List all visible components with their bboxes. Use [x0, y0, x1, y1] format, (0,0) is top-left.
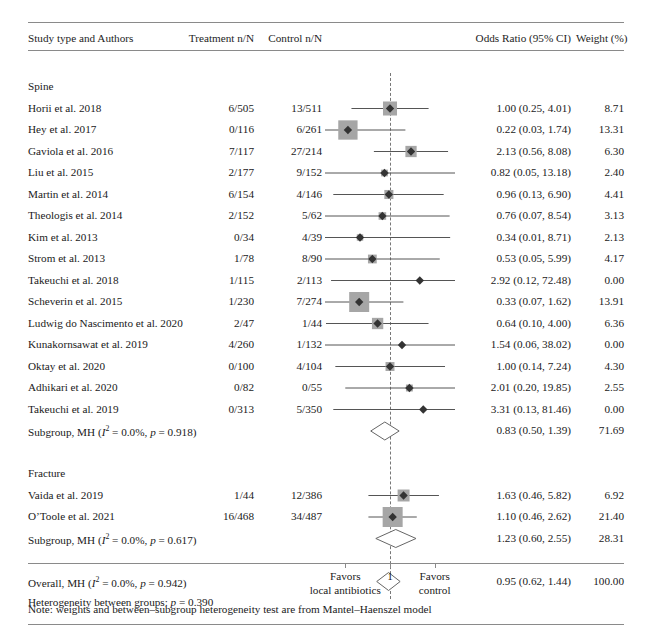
weight-value: 0.00 — [578, 274, 624, 286]
weight-value: 4.30 — [578, 360, 624, 372]
table-row: Hey et al. 20170/1166/2610.22 (0.03, 1.7… — [0, 123, 648, 143]
odds-ratio-value: 0.22 (0.03, 1.74) — [463, 123, 571, 135]
table-row: Kunakornsawat et al. 20194/2601/1321.54 … — [0, 338, 648, 358]
study-name: Adhikari et al. 2020 — [28, 381, 117, 393]
study-name: O’Toole et al. 2021 — [28, 510, 115, 522]
treatment-count: 0/34 — [186, 231, 254, 243]
table-row: Adhikari et al. 20200/820/552.01 (0.20, … — [0, 381, 648, 401]
weight-value: 0.00 — [578, 338, 624, 350]
control-count: 34/487 — [256, 510, 322, 522]
table-row: Liu et al. 20152/1779/1520.82 (0.05, 13.… — [0, 166, 648, 186]
horizontal-rule — [28, 624, 624, 625]
odds-ratio-value: 0.33 (0.07, 1.62) — [463, 295, 571, 307]
table-row: Takeuchi et al. 20190/3135/3503.31 (0.13… — [0, 403, 648, 423]
summary-odds-ratio: 0.83 (0.50, 1.39) — [463, 424, 571, 436]
table-row: O’Toole et al. 202116/46834/4871.10 (0.4… — [0, 510, 648, 530]
control-count: 13/511 — [256, 102, 322, 114]
study-name: Strom et al. 2013 — [28, 252, 105, 264]
summary-weight: 71.69 — [578, 424, 624, 436]
axis-label-left-line1: Favors — [285, 570, 405, 582]
control-count: 4/104 — [256, 360, 322, 372]
subgroup-summary-row: Subgroup, MH (I2 = 0.0%, p = 0.918)0.83 … — [0, 424, 648, 444]
weight-value: 8.71 — [578, 102, 624, 114]
horizontal-rule — [28, 563, 624, 564]
table-row: Theologis et al. 20142/1525/620.76 (0.07… — [0, 209, 648, 229]
study-name: Oktay et al. 2020 — [28, 360, 105, 372]
study-name: Takeuchi et al. 2019 — [28, 403, 119, 415]
study-name: Scheverin et al. 2015 — [28, 295, 122, 307]
study-name: Horii et al. 2018 — [28, 102, 101, 114]
treatment-count: 16/468 — [186, 510, 254, 522]
summary-prefix: Subgroup, MH ( — [28, 426, 102, 438]
summary-mid: = 0.0%, — [109, 426, 150, 438]
summary-weight: 100.00 — [578, 575, 624, 587]
control-count: 27/214 — [256, 145, 322, 157]
odds-ratio-value: 0.64 (0.10, 4.00) — [463, 317, 571, 329]
weight-value: 6.30 — [578, 145, 624, 157]
treatment-count: 0/313 — [186, 403, 254, 415]
axis-tick — [435, 563, 436, 568]
forest-plot-figure: Study type and AuthorsTreatment n/NContr… — [0, 0, 648, 641]
odds-ratio-value: 0.82 (0.05, 13.18) — [463, 166, 571, 178]
table-row: Kim et al. 20130/344/390.34 (0.01, 8.71)… — [0, 231, 648, 251]
table-row: Martin et al. 20146/1544/1460.96 (0.13, … — [0, 188, 648, 208]
summary-weight: 28.31 — [578, 532, 624, 544]
study-name: Theologis et al. 2014 — [28, 209, 122, 221]
weight-value: 0.00 — [578, 403, 624, 415]
odds-ratio-value: 0.96 (0.13, 6.90) — [463, 188, 571, 200]
weight-value: 6.36 — [578, 317, 624, 329]
summary-odds-ratio: 1.23 (0.60, 2.55) — [463, 532, 571, 544]
axis-label-right-line2: control — [389, 584, 481, 596]
weight-value: 13.31 — [578, 123, 624, 135]
subgroup-label: Subgroup, MH (I2 = 0.0%, p = 0.918) — [28, 424, 197, 438]
control-count: 1/44 — [256, 317, 322, 329]
odds-ratio-value: 0.76 (0.07, 8.54) — [463, 209, 571, 221]
table-row: Gaviola et al. 20167/11727/2142.13 (0.56… — [0, 145, 648, 165]
control-count: 5/62 — [256, 209, 322, 221]
odds-ratio-value: 3.31 (0.13, 81.46) — [463, 403, 571, 415]
treatment-count: 6/154 — [186, 188, 254, 200]
treatment-count: 0/82 — [186, 381, 254, 393]
treatment-count: 2/177 — [186, 166, 254, 178]
treatment-count: 1/78 — [186, 252, 254, 264]
axis-label-left-line2: local antibiotics — [285, 584, 405, 596]
treatment-count: 6/505 — [186, 102, 254, 114]
weight-value: 3.13 — [578, 209, 624, 221]
control-count: 0/55 — [256, 381, 322, 393]
odds-ratio-value: 1.54 (0.06, 38.02) — [463, 338, 571, 350]
weight-value: 4.17 — [578, 252, 624, 264]
control-count: 12/386 — [256, 489, 322, 501]
treatment-count: 1/230 — [186, 295, 254, 307]
odds-ratio-value: 2.92 (0.12, 72.48) — [463, 274, 571, 286]
treatment-count: 1/44 — [186, 489, 254, 501]
study-name: Liu et al. 2015 — [28, 166, 93, 178]
axis-label-right-line1: Favors — [389, 570, 481, 582]
table-row: Strom et al. 20131/788/900.53 (0.05, 5.9… — [0, 252, 648, 272]
odds-ratio-value: 1.63 (0.46, 5.82) — [463, 489, 571, 501]
table-row: Oktay et al. 20200/1004/1041.00 (0.14, 7… — [0, 360, 648, 380]
odds-ratio-value: 0.34 (0.01, 8.71) — [463, 231, 571, 243]
study-name: Takeuchi et al. 2018 — [28, 274, 119, 286]
study-name: Martin et al. 2014 — [28, 188, 108, 200]
odds-ratio-value: 1.00 (0.14, 7.24) — [463, 360, 571, 372]
summary-suffix: = 0.942) — [146, 576, 187, 588]
overall-label: Overall, MH (I2 = 0.0%, p = 0.942) — [28, 575, 187, 589]
table-row: Vaida et al. 20191/4412/3861.63 (0.46, 5… — [0, 489, 648, 509]
study-name: Hey et al. 2017 — [28, 123, 96, 135]
study-name: Kunakornsawat et al. 2019 — [28, 338, 148, 350]
control-count: 9/152 — [256, 166, 322, 178]
table-row: Takeuchi et al. 20181/1152/1132.92 (0.12… — [0, 274, 648, 294]
treatment-count: 7/117 — [186, 145, 254, 157]
treatment-count: 0/116 — [186, 123, 254, 135]
odds-ratio-value: 2.01 (0.20, 19.85) — [463, 381, 571, 393]
weight-value: 21.40 — [578, 510, 624, 522]
subgroup-label: Subgroup, MH (I2 = 0.0%, p = 0.617) — [28, 532, 197, 546]
odds-ratio-value: 0.53 (0.05, 5.99) — [463, 252, 571, 264]
table-row: Horii et al. 20186/50513/5111.00 (0.25, … — [0, 102, 648, 122]
table-row: Scheverin et al. 20151/2307/2740.33 (0.0… — [0, 295, 648, 315]
weight-value: 2.13 — [578, 231, 624, 243]
study-name: Vaida et al. 2019 — [28, 489, 103, 501]
control-count: 2/113 — [256, 274, 322, 286]
odds-ratio-value: 2.13 (0.56, 8.08) — [463, 145, 571, 157]
weight-value: 13.91 — [578, 295, 624, 307]
